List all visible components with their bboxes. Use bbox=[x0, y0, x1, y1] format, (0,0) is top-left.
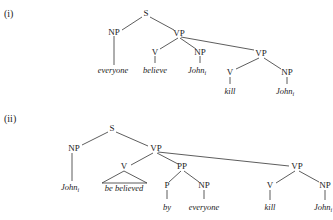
node-VP-embedded: VP bbox=[291, 161, 303, 171]
node-NP: NP bbox=[108, 27, 120, 37]
word-john-embedded: Johni bbox=[276, 86, 295, 97]
example-label-i: (i) bbox=[4, 8, 13, 20]
node-V-embedded: V bbox=[227, 67, 234, 77]
tree-i: (i) S NP VP V NP VP V NP everyone believ… bbox=[4, 8, 294, 97]
node-PP: PP bbox=[177, 161, 187, 171]
word-be-believed: be believed bbox=[105, 183, 144, 193]
node-V-embedded: V bbox=[267, 180, 274, 190]
word-john: Johni bbox=[61, 182, 80, 193]
node-VP: VP bbox=[173, 28, 185, 38]
edge bbox=[82, 132, 108, 145]
node-NP-object: NP bbox=[194, 47, 206, 57]
edge bbox=[160, 38, 178, 49]
edge bbox=[131, 153, 153, 165]
tree-ii: (ii) S NP VP V PP P NP VP V NP Johni be … bbox=[4, 113, 332, 213]
edge bbox=[276, 171, 295, 183]
edge bbox=[157, 153, 178, 164]
edge bbox=[181, 37, 254, 50]
node-V: V bbox=[121, 161, 128, 171]
edge bbox=[184, 171, 199, 182]
edge bbox=[299, 171, 319, 182]
syntax-trees-figure: (i) S NP VP V NP VP V NP everyone believ… bbox=[0, 0, 333, 220]
edge bbox=[264, 58, 281, 69]
node-S: S bbox=[109, 123, 114, 133]
node-VP-embedded: VP bbox=[255, 48, 267, 58]
example-label-ii: (ii) bbox=[4, 113, 16, 125]
node-VP: VP bbox=[150, 143, 162, 153]
word-everyone: everyone bbox=[189, 202, 220, 212]
edge bbox=[116, 132, 148, 146]
node-P: P bbox=[164, 180, 169, 190]
word-everyone: everyone bbox=[98, 65, 129, 75]
edge bbox=[236, 58, 259, 69]
node-NP-by: NP bbox=[198, 180, 210, 190]
edge bbox=[150, 17, 174, 30]
node-NP: NP bbox=[68, 143, 80, 153]
edge bbox=[169, 171, 181, 182]
word-believe: believe bbox=[143, 65, 167, 75]
node-NP-embedded: NP bbox=[281, 67, 293, 77]
word-kill: kill bbox=[225, 86, 236, 96]
word-john-embedded: Johni bbox=[314, 202, 333, 213]
node-NP-embedded: NP bbox=[319, 180, 331, 190]
word-by: by bbox=[163, 202, 171, 212]
triangle-be-believed bbox=[102, 171, 147, 183]
node-S: S bbox=[143, 8, 148, 18]
edge bbox=[122, 17, 142, 30]
word-john: Johni bbox=[188, 65, 207, 76]
node-V: V bbox=[152, 47, 159, 57]
word-kill: kill bbox=[265, 202, 276, 212]
